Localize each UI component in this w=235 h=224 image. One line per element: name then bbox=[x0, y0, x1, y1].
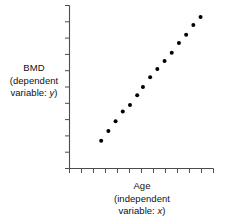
data-point bbox=[114, 119, 118, 123]
data-point bbox=[177, 41, 181, 45]
scatter-plot-figure: BMD (dependent variable: y) Age (indepen… bbox=[0, 0, 235, 224]
data-point-group bbox=[99, 15, 202, 143]
x-axis-ticks bbox=[70, 169, 214, 174]
data-point bbox=[141, 85, 145, 89]
data-point bbox=[121, 109, 125, 113]
data-point bbox=[163, 59, 167, 63]
data-point bbox=[135, 93, 139, 97]
plot-area bbox=[0, 0, 235, 224]
data-point bbox=[184, 33, 188, 37]
y-axis-ticks bbox=[65, 6, 70, 169]
data-point bbox=[148, 75, 152, 79]
data-point bbox=[199, 15, 203, 19]
data-point bbox=[191, 23, 195, 27]
data-point bbox=[128, 103, 132, 107]
data-point bbox=[106, 129, 110, 133]
data-point bbox=[99, 139, 103, 143]
data-point bbox=[155, 67, 159, 71]
data-point bbox=[170, 51, 174, 55]
